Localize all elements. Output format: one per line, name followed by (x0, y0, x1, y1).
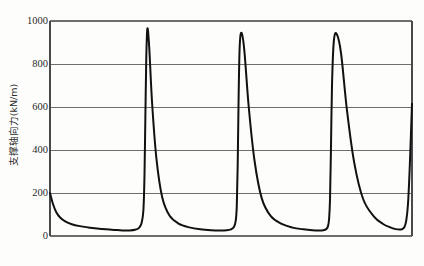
series-line-0 (50, 28, 412, 230)
plot-area (0, 0, 424, 266)
data-series (50, 28, 412, 230)
gridlines (50, 21, 412, 236)
plot-frame (50, 21, 412, 236)
chart-figure: 支撑轴向力(kN/m) 1000 800 600 400 200 0 (0, 0, 424, 266)
